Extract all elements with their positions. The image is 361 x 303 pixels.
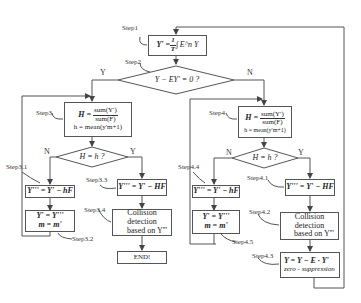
step3-4-line2: based on Y''' (127, 227, 167, 236)
decision3-no-label: N (44, 147, 50, 156)
step3-2-line2: m = m' (38, 221, 61, 230)
step3-2-label: Step3.2 (72, 235, 93, 243)
step4-3-box: Y = Y − E · Y' zero - suppression (280, 252, 340, 278)
step4-2-line2: based on Y''' (294, 230, 334, 239)
step2-condition: Y − EY' = 0 ? (150, 75, 204, 84)
step1-label: Step1 (122, 24, 138, 32)
decision4-condition: H = h ? (245, 153, 285, 162)
step2-no-label: N (247, 68, 253, 77)
step3-box: H = sum(Y') sum(F) h = mean(y'm+1) (64, 102, 132, 137)
step3-4-label: Step3.4 (84, 206, 105, 214)
step2-label: Step2 (125, 58, 141, 66)
flowchart: Step1 Y' = 1 T ∫ E^n Y Step2 Y − EY' = 0… (0, 0, 361, 303)
step1-frac-den: T (171, 46, 175, 54)
step4-2-line1: Collision detection (281, 213, 338, 231)
decision3-condition: H = h ? (72, 152, 112, 161)
step4-4-label: Step4.4 (178, 163, 199, 171)
step4-4-box: Y''' = Y' − hF (192, 185, 240, 198)
step3-3-box: Y''' = Y' − HF (117, 179, 167, 196)
step4-5-label: Step4.5 (232, 238, 253, 246)
step3-2-box: Y' = Y''' m = m' (25, 210, 75, 232)
step3-3-formula: Y''' = Y' − HF (118, 183, 165, 192)
step3-4-line1: Collision detection (113, 209, 171, 227)
step3-label: Step3 (36, 109, 52, 117)
step4-4-formula: Y''' = Y' − hF (193, 187, 239, 196)
step4-1-label: Step4.1 (247, 174, 268, 182)
step4-box: H = sum(Y') sum(F) h = mean(y'm+1) (238, 106, 292, 138)
step4-3-label: Step4.3 (252, 252, 273, 260)
step3-line2: h = mean(y'm+1) (74, 124, 122, 132)
end-box: END! (117, 251, 167, 264)
step4-5-line2: m = m' (204, 222, 227, 231)
step3-1-box: Y''' = Y' − hF (25, 185, 75, 198)
step3-1-formula: Y''' = Y' − hF (27, 187, 73, 196)
step4-frac-den: sum(F) (262, 119, 282, 127)
step3-fraction: sum(Y') sum(F) (93, 107, 118, 123)
step1-rhs: ∫ E^n Y (176, 41, 199, 50)
step1-lhs: Y' = (156, 41, 170, 50)
step2-yes-label: Y (100, 68, 106, 77)
decision3-yes-label: Y (130, 147, 136, 156)
step4-lhs: H = (245, 114, 258, 123)
step3-lhs: H = (78, 111, 91, 120)
step4-5-box: Y' = Y''' m = m' (192, 210, 240, 234)
decision4-no-label: N (226, 148, 232, 157)
step4-1-formula: Y''' = Y' − HF (286, 183, 333, 192)
step4-3-line2: zero - suppression (284, 266, 335, 274)
step3-3-label: Step3.3 (86, 176, 107, 184)
step3-4-box: Collision detection based on Y''' (112, 209, 172, 236)
step4-2-box: Collision detection based on Y''' (280, 212, 339, 240)
step3-1-label: Step3.1 (6, 163, 27, 171)
step4-label: Step4 (209, 109, 225, 117)
step4-line2: h = mean(y'm+1) (244, 127, 286, 134)
step4-fraction: sum(Y') sum(F) (260, 111, 285, 127)
end-label: END! (134, 254, 151, 262)
step1-box: Y' = 1 T ∫ E^n Y (148, 35, 207, 56)
step4-1-box: Y''' = Y' − HF (285, 179, 335, 196)
decision4-yes-label: Y (298, 148, 304, 157)
step4-2-label: Step4.2 (249, 208, 270, 216)
